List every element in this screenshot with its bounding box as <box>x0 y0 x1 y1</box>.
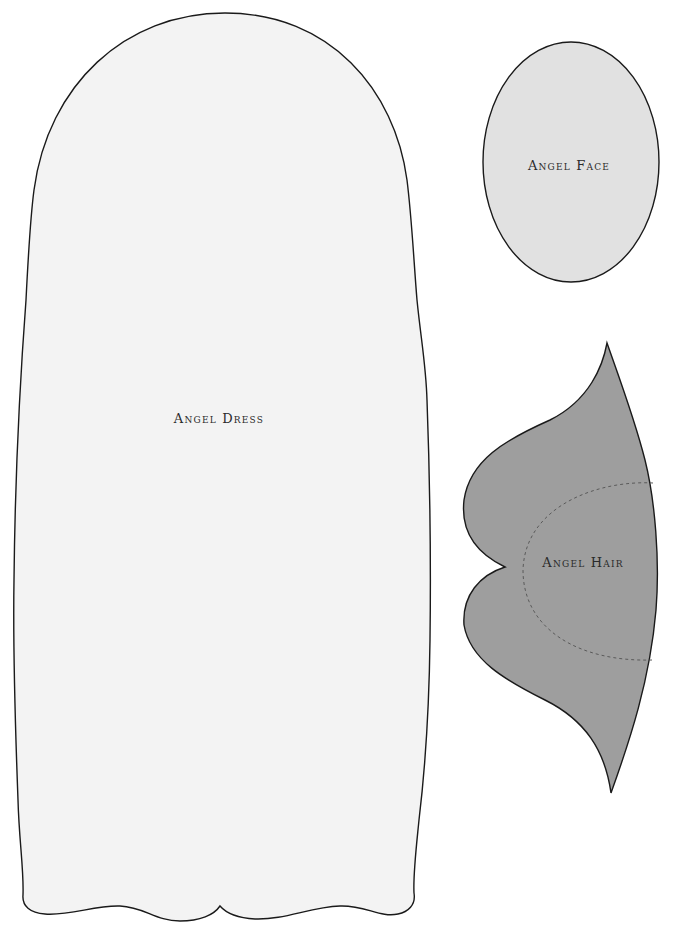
dress-label: Angel Dress <box>174 412 264 425</box>
face-label: Angel Face <box>528 159 610 172</box>
hair-label: Angel Hair <box>542 556 623 569</box>
dress-pattern-piece <box>14 13 431 921</box>
pattern-canvas <box>0 0 675 941</box>
